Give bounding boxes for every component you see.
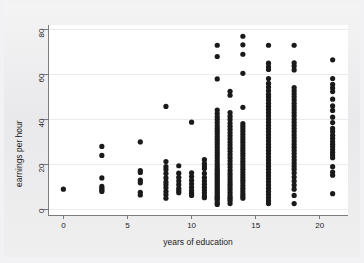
scatter-point [330, 164, 335, 169]
scatter-point [266, 67, 271, 72]
scatter-point [176, 163, 181, 168]
scatter-point [99, 189, 104, 194]
scatter-point [189, 193, 194, 198]
scatter-point [202, 166, 207, 171]
scatter-point [189, 120, 194, 125]
scatter-point [227, 93, 232, 98]
scatter-point [266, 76, 271, 81]
scatter-point [292, 43, 297, 48]
scatter-point [330, 120, 335, 125]
scatter-point [99, 144, 104, 149]
scatter-point [330, 57, 335, 62]
scatter-point [330, 108, 335, 113]
scatter-point [330, 97, 335, 102]
x-tick-label: 15 [246, 221, 266, 230]
scatter-point [292, 193, 297, 198]
scatter-point [330, 155, 335, 160]
scatter-point [163, 159, 168, 164]
scatter-point [202, 195, 207, 200]
scatter-point [240, 196, 245, 201]
scatter-point [330, 115, 335, 120]
data-point-markers [61, 34, 335, 207]
tick-marks [44, 29, 320, 219]
x-tick-label: 0 [53, 221, 73, 230]
scatter-point [138, 139, 143, 144]
scatter-point [61, 187, 66, 192]
scatter-point [163, 104, 168, 109]
axis-lines [48, 25, 348, 215]
scatter-point [215, 202, 220, 207]
y-tick-label: 60 [37, 74, 46, 115]
y-tick-label: 0 [37, 209, 46, 250]
scatter-point [266, 201, 271, 206]
x-tick-label: 10 [182, 221, 202, 230]
scatter-point [266, 43, 271, 48]
scatter-point [240, 105, 245, 110]
y-tick-label: 20 [37, 164, 46, 205]
y-tick-label: 80 [37, 29, 46, 70]
scatter-point [330, 76, 335, 81]
scatter-point [240, 52, 245, 57]
scatter-point [138, 180, 143, 185]
scatter-point [292, 201, 297, 206]
y-tick-label: 40 [37, 119, 46, 160]
scatter-point [99, 153, 104, 158]
x-tick-label: 20 [310, 221, 330, 230]
scatter-point [330, 89, 335, 94]
x-tick-label: 5 [117, 221, 137, 230]
gridlines [48, 29, 348, 209]
scatter-point [240, 34, 245, 39]
scatter-point [240, 71, 245, 76]
scatter-point [163, 196, 168, 201]
scatter-point [227, 201, 232, 206]
figure-canvas: 020406080 05101520 earnings per hour yea… [0, 0, 364, 263]
scatter-point [99, 175, 104, 180]
scatter-point [330, 103, 335, 108]
scatter-point [292, 67, 297, 72]
y-axis-title: earnings per hour [14, 120, 24, 187]
scatter-point [240, 42, 245, 47]
scatter-point [215, 43, 220, 48]
x-axis-title: years of education [158, 237, 238, 247]
scatter-point [138, 192, 143, 197]
scatter-point [176, 190, 181, 195]
scatter-point [215, 54, 220, 59]
scatter-point [292, 187, 297, 192]
scatter-point [330, 173, 335, 178]
scatter-point [138, 170, 143, 175]
scatter-point [163, 171, 168, 176]
scatter-point [215, 76, 220, 81]
scatter-point [330, 191, 335, 196]
